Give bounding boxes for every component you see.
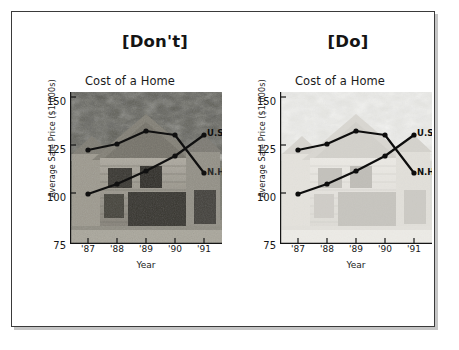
x-tick-91-dont: '91 xyxy=(193,244,215,254)
series-label-nh-dont: N.H. xyxy=(207,167,222,177)
x-axis-label-dont: Year xyxy=(70,260,222,270)
chart-title-do: Cost of a Home xyxy=(240,74,440,88)
y-tick-125-do: 125 xyxy=(246,144,276,155)
series-label-us-dont: U.S. xyxy=(207,128,222,138)
x-tick-88-do: '88 xyxy=(316,244,338,254)
x-axis-ticks-dont: '87 '88 '89 '90 '91 xyxy=(70,244,222,260)
x-axis-ticks-do: '87 '88 '89 '90 '91 xyxy=(280,244,432,260)
y-tick-150-do: 150 xyxy=(246,96,276,107)
x-tick-87-do: '87 xyxy=(287,244,309,254)
y-tick-125-dont: 125 xyxy=(36,144,66,155)
figure-page: [Don't] [Do] Cost of a Home Average Sale… xyxy=(0,0,459,350)
plot-area-do: U.S. N.H. xyxy=(280,92,432,244)
panel-header-do: [Do] xyxy=(300,32,396,51)
y-tick-75-dont: 75 xyxy=(36,240,66,251)
data-lines-do xyxy=(280,92,432,244)
figure-frame: [Don't] [Do] Cost of a Home Average Sale… xyxy=(11,11,435,327)
x-axis-label-do: Year xyxy=(280,260,432,270)
x-tick-89-dont: '89 xyxy=(135,244,157,254)
y-tick-100-dont: 100 xyxy=(36,192,66,203)
x-tick-87-dont: '87 xyxy=(77,244,99,254)
y-tick-150-dont: 150 xyxy=(36,96,66,107)
x-tick-89-do: '89 xyxy=(345,244,367,254)
y-axis-ticks-do: 150 125 100 75 xyxy=(242,96,276,240)
x-tick-90-do: '90 xyxy=(374,244,396,254)
panel-header-dont: [Don't] xyxy=(90,32,220,51)
x-tick-91-do: '91 xyxy=(403,244,425,254)
panel-headers: [Don't] [Do] xyxy=(12,32,434,62)
y-tick-100-do: 100 xyxy=(246,192,276,203)
y-axis-ticks-dont: 150 125 100 75 xyxy=(32,96,66,240)
chart-panel-dont: Cost of a Home Average Sale Price ($1,00… xyxy=(30,74,230,304)
y-tick-75-do: 75 xyxy=(246,240,276,251)
plot-area-dont: U.S. N.H. xyxy=(70,92,222,244)
series-label-nh-do: N.H. xyxy=(417,167,432,177)
chart-panel-do: Cost of a Home Average Sale Price ($1,00… xyxy=(240,74,440,304)
data-lines-dont xyxy=(70,92,222,244)
series-label-us-do: U.S. xyxy=(417,128,432,138)
x-tick-88-dont: '88 xyxy=(106,244,128,254)
chart-title-dont: Cost of a Home xyxy=(30,74,230,88)
x-tick-90-dont: '90 xyxy=(164,244,186,254)
